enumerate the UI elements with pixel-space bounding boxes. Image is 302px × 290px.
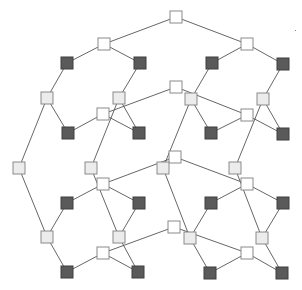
node-dark-square <box>205 127 217 139</box>
node-light-square <box>184 232 196 244</box>
node-white-square <box>97 178 109 190</box>
node-white-square <box>241 178 253 190</box>
node-white-square <box>170 81 182 93</box>
node-dark-square <box>61 57 73 69</box>
node-light-square <box>113 231 125 243</box>
node-white-square <box>97 247 109 259</box>
node-dark-square <box>132 266 144 278</box>
node-dark-square <box>62 127 74 139</box>
node-light-square <box>41 92 53 104</box>
node-white-square <box>241 247 253 259</box>
edge-layer <box>19 17 283 273</box>
mark-layer <box>295 30 296 31</box>
node-light-square <box>113 92 125 104</box>
edge-n8-n19 <box>19 98 47 168</box>
node-dark-square <box>277 197 289 209</box>
stray-dot <box>295 30 296 31</box>
node-white-square <box>241 38 253 50</box>
node-dark-square <box>277 128 289 140</box>
node-white-square <box>169 151 181 163</box>
node-dark-square <box>133 127 145 139</box>
node-dark-square <box>61 266 73 278</box>
node-white-square <box>241 109 253 121</box>
node-light-square <box>229 162 241 174</box>
node-light-square <box>257 93 269 105</box>
node-dark-square <box>61 197 73 209</box>
node-dark-square <box>204 267 216 279</box>
node-dark-square <box>134 57 146 69</box>
node-dark-square <box>277 58 289 70</box>
node-dark-square <box>205 197 217 209</box>
node-white-square <box>170 11 182 23</box>
node-light-square <box>157 162 169 174</box>
node-layer <box>13 11 289 279</box>
node-light-square <box>256 232 268 244</box>
node-white-square <box>97 108 109 120</box>
edge-n0-n2 <box>176 17 247 44</box>
node-light-square <box>13 162 25 174</box>
node-dark-square <box>133 197 145 209</box>
node-light-square <box>41 231 53 243</box>
node-dark-square <box>276 267 288 279</box>
graph-diagram <box>0 0 302 290</box>
edge-n19-n30 <box>19 168 47 237</box>
node-light-square <box>85 162 97 174</box>
node-white-square <box>98 38 110 50</box>
node-light-square <box>185 93 197 105</box>
node-dark-square <box>206 57 218 69</box>
node-white-square <box>168 221 180 233</box>
edge-n0-n1 <box>104 17 176 44</box>
